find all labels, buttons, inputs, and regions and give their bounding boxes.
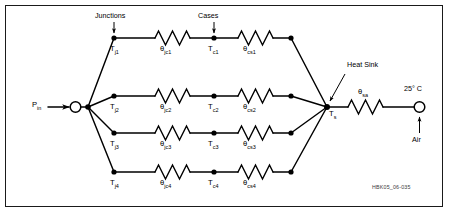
case-temp-label-2: Tc2 xyxy=(208,103,218,113)
node-tj1 xyxy=(111,35,116,40)
converge-wire-3 xyxy=(291,107,327,133)
junctions-annotation: Junctions xyxy=(95,12,125,19)
node-tj3 xyxy=(111,130,116,135)
resistor-label-theta-cs3: θcs3 xyxy=(243,140,256,150)
resistor-label-theta-jc1: θjc1 xyxy=(160,45,171,55)
ambient-terminal xyxy=(414,102,425,113)
converge-wire-1 xyxy=(291,38,327,107)
node-tj2 xyxy=(111,93,116,98)
node-tc4 xyxy=(211,169,216,174)
tj3-subscript: j3 xyxy=(115,144,119,150)
resistor-theta-sa xyxy=(348,100,383,114)
node-cs1-out xyxy=(288,35,293,40)
theta-cs2-subscript: cs2 xyxy=(247,107,256,113)
resistor-theta-jc2 xyxy=(155,89,190,103)
resistor-label-theta-jc3: θjc3 xyxy=(160,140,171,150)
resistor-label-theta-jc2: θjc2 xyxy=(160,103,171,113)
theta-jc1-subscript: jc1 xyxy=(164,49,171,55)
resistor-theta-cs1 xyxy=(238,31,273,45)
resistor-label-theta-sa: θsa xyxy=(358,88,368,98)
power-input-terminal xyxy=(70,102,81,113)
heat-sink-leader-arrow xyxy=(330,74,345,101)
junction-temp-label-4: Tj4 xyxy=(110,179,119,189)
resistor-label-theta-cs2: θcs2 xyxy=(243,103,256,113)
node-cs2-out xyxy=(288,93,293,98)
resistor-label-theta-cs1: θcs1 xyxy=(243,45,256,55)
theta-sa-subscript: sa xyxy=(362,92,368,98)
junction-temp-label-1: Tj1 xyxy=(110,45,119,55)
resistor-theta-cs4 xyxy=(238,165,273,179)
tj2-subscript: j2 xyxy=(115,107,119,113)
tj4-subscript: j4 xyxy=(115,183,119,189)
network-wires xyxy=(48,31,425,179)
heat-sink-annotation: Heat Sink xyxy=(347,61,378,68)
power-input-label: Pin xyxy=(32,101,41,111)
theta-cs3-subscript: cs3 xyxy=(247,144,256,150)
case-temp-label-3: Tc3 xyxy=(208,140,218,150)
tj1-subscript: j1 xyxy=(115,49,119,55)
theta-jc2-subscript: jc2 xyxy=(164,107,171,113)
theta-jc3-subscript: jc3 xyxy=(164,144,171,150)
tc2-subscript: c2 xyxy=(213,107,219,113)
node-tc3 xyxy=(211,130,216,135)
case-temp-label-4: Tc4 xyxy=(208,179,218,189)
resistor-theta-cs2 xyxy=(238,89,273,103)
figure-reference-id: HBK05_06-035 xyxy=(372,185,411,190)
annotation-leaders xyxy=(114,22,420,133)
sink-temp-subscript: s xyxy=(334,114,337,120)
node-cs3-out xyxy=(288,130,293,135)
node-tc1 xyxy=(211,35,216,40)
cases-annotation: Cases xyxy=(198,12,218,19)
node-tc2 xyxy=(211,93,216,98)
resistor-label-theta-cs4: θcs4 xyxy=(243,179,256,189)
case-temp-label-1: Tc1 xyxy=(208,45,218,55)
ambient-temperature-label: 25° C xyxy=(404,85,422,92)
theta-cs1-subscript: cs1 xyxy=(247,49,256,55)
sink-temperature-label: Ts xyxy=(329,110,336,120)
converge-wire-4 xyxy=(291,107,327,172)
air-label: Air xyxy=(412,136,421,143)
figure-canvas: Junctions Cases Heat Sink 25° C Air Pin … xyxy=(0,0,450,216)
tc3-subscript: c3 xyxy=(213,144,219,150)
theta-cs4-subscript: cs4 xyxy=(247,183,256,189)
resistor-theta-cs3 xyxy=(238,126,273,140)
node-source-split xyxy=(85,104,91,110)
theta-jc4-subscript: jc4 xyxy=(164,183,171,189)
resistor-label-theta-jc4: θjc4 xyxy=(160,179,171,189)
resistor-theta-jc3 xyxy=(155,126,190,140)
tc1-subscript: c1 xyxy=(213,49,219,55)
junction-temp-label-2: Tj2 xyxy=(110,103,119,113)
resistor-theta-jc1 xyxy=(155,31,190,45)
junction-temp-label-3: Tj3 xyxy=(110,140,119,150)
node-tj4 xyxy=(111,169,116,174)
node-cs4-out xyxy=(288,169,293,174)
resistor-theta-jc4 xyxy=(155,165,190,179)
power-input-subscript: in xyxy=(37,105,41,111)
tc4-subscript: c4 xyxy=(213,183,219,189)
